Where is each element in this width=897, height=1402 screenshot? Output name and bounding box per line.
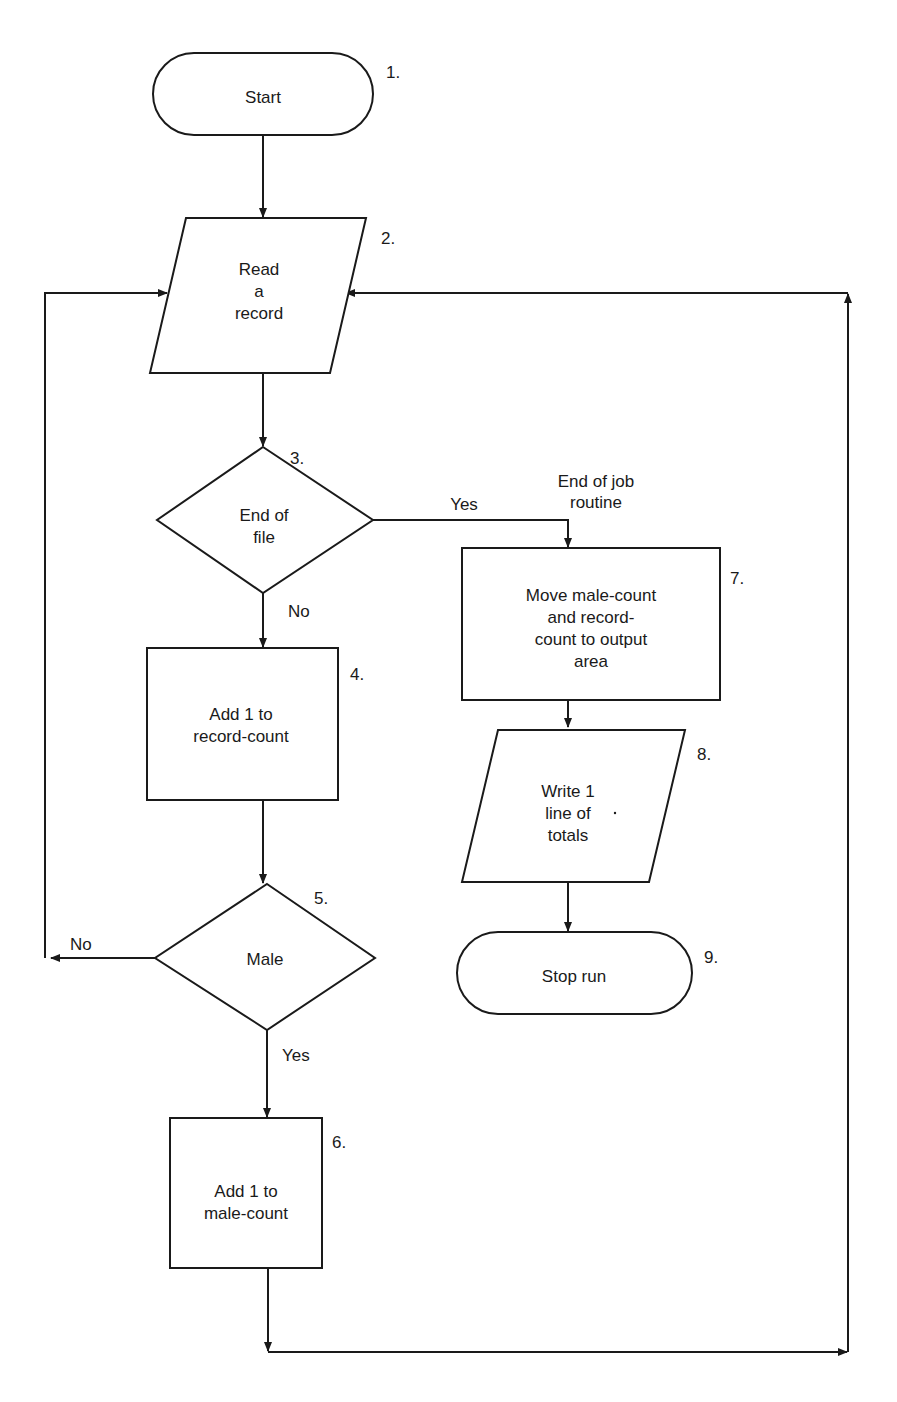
end-of-job-annotation: End of job routine <box>558 472 635 512</box>
node-add-male-count: Add 1 to male-count 6. <box>170 1118 346 1268</box>
edge-eof-yes-to-move <box>373 520 568 547</box>
node-end-of-file: End of file 3. Yes No <box>157 447 478 621</box>
node-eof-number: 3. <box>290 449 304 468</box>
flowchart-canvas: Start 1. Read a record 2. End of file 3.… <box>0 0 897 1402</box>
node-write-number: 8. <box>697 745 711 764</box>
node-read-line-2: a <box>254 282 264 301</box>
end-of-job-line-2: routine <box>570 493 622 512</box>
node-male-label: Male <box>247 950 284 969</box>
node-move-number: 7. <box>730 569 744 588</box>
node-start-number: 1. <box>386 63 400 82</box>
edge-label-eof-no: No <box>288 602 310 621</box>
node-start: Start 1. <box>153 53 400 135</box>
node-add-record-number: 4. <box>350 665 364 684</box>
node-add-record-line-1: Add 1 to <box>209 705 272 724</box>
node-move-line-1: Move male-count <box>526 586 657 605</box>
process-shape <box>147 648 338 800</box>
node-stop-number: 9. <box>704 948 718 967</box>
node-read-line-3: record <box>235 304 283 323</box>
node-write-totals: Write 1 line of totals 8. <box>462 730 711 882</box>
node-stop-run: Stop run 9. <box>457 932 718 1014</box>
node-read-line-1: Read <box>239 260 280 279</box>
node-add-record-count: Add 1 to record-count 4. <box>147 648 364 800</box>
node-add-male-number: 6. <box>332 1133 346 1152</box>
node-male: Male 5. No Yes <box>70 884 375 1065</box>
edge-label-male-no: No <box>70 935 92 954</box>
edge-label-male-yes: Yes <box>282 1046 310 1065</box>
node-move-counts: Move male-count and record- count to out… <box>462 548 744 700</box>
node-male-number: 5. <box>314 889 328 908</box>
node-eof-line-1: End of <box>239 506 288 525</box>
node-eof-line-2: file <box>253 528 275 547</box>
node-add-male-line-2: male-count <box>204 1204 288 1223</box>
node-write-line-3: totals <box>548 826 589 845</box>
end-of-job-line-1: End of job <box>558 472 635 491</box>
node-move-line-4: area <box>574 652 609 671</box>
node-stop-label: Stop run <box>542 967 606 986</box>
node-start-label: Start <box>245 88 281 107</box>
edge-label-eof-yes: Yes <box>450 495 478 514</box>
node-move-line-3: count to output <box>535 630 648 649</box>
node-add-male-line-1: Add 1 to <box>214 1182 277 1201</box>
node-read-number: 2. <box>381 229 395 248</box>
node-add-record-line-2: record-count <box>193 727 289 746</box>
node-write-line-2: line of <box>545 804 591 823</box>
node-write-line-1: Write 1 <box>541 782 595 801</box>
edge-loop-left-to-read <box>45 293 167 958</box>
node-move-line-2: and record- <box>548 608 635 627</box>
node-read-record: Read a record 2. <box>150 218 395 373</box>
speck-mark <box>614 812 616 814</box>
